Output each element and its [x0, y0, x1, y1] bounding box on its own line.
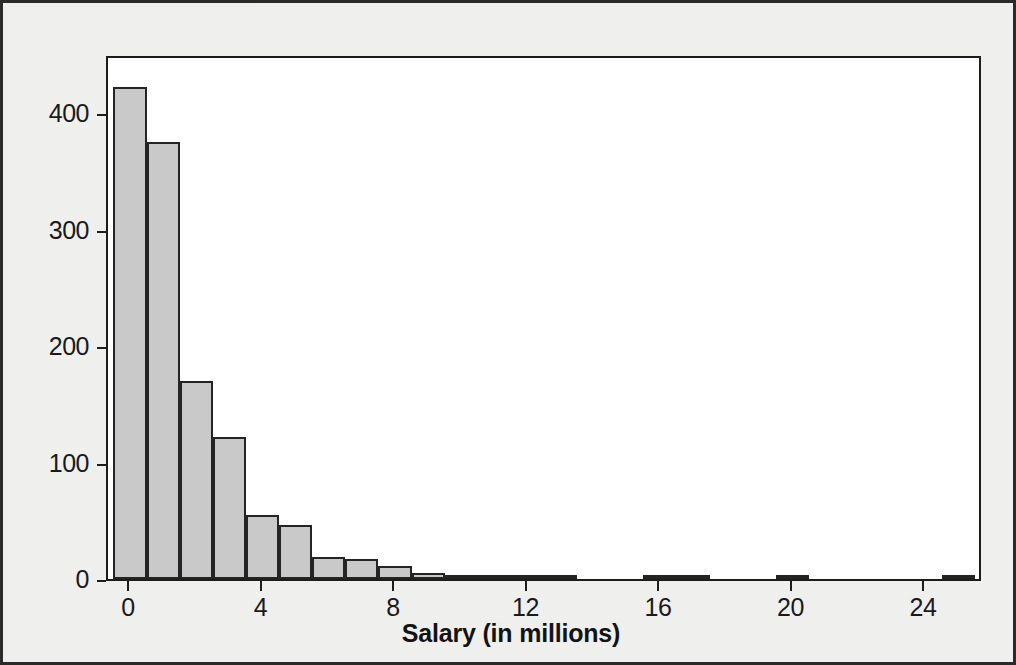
histogram-bar — [246, 515, 279, 579]
x-axis-tick-mark — [657, 581, 659, 591]
x-axis-tick-label: 12 — [486, 593, 566, 622]
x-axis-tick-mark — [127, 581, 129, 591]
plot-area — [106, 56, 981, 581]
x-axis-tick-label: 4 — [221, 593, 301, 622]
y-axis-tick-label: 300 — [3, 216, 89, 245]
histogram-bar — [412, 573, 445, 579]
x-axis-tick-mark — [260, 581, 262, 591]
y-axis-tick-label: 400 — [3, 99, 89, 128]
histogram-bar — [445, 575, 478, 579]
y-axis-tick-label: 0 — [3, 565, 89, 594]
histogram-bar — [942, 575, 975, 579]
y-axis-tick-mark — [97, 347, 106, 349]
histogram-bar — [544, 575, 577, 579]
histogram-bar — [378, 566, 411, 579]
histogram-bar — [478, 575, 511, 579]
bars-layer — [108, 58, 979, 579]
histogram-bar — [213, 437, 246, 579]
y-axis-tick-mark — [97, 114, 106, 116]
y-axis-tick-label: 200 — [3, 332, 89, 361]
histogram-bar — [776, 575, 809, 579]
x-axis-tick-label: 0 — [88, 593, 168, 622]
y-axis-tick-label: 100 — [3, 449, 89, 478]
histogram-bar — [113, 87, 146, 579]
histogram-bar — [677, 575, 710, 579]
histogram-bar — [147, 142, 180, 579]
x-axis-tick-mark — [790, 581, 792, 591]
x-axis-tick-label: 24 — [883, 593, 963, 622]
histogram-bar — [180, 381, 213, 579]
histogram-bar — [643, 575, 676, 579]
histogram-figure: 0100200300400 04812162024 Salary (in mil… — [0, 0, 1016, 665]
x-axis-tick-label: 20 — [751, 593, 831, 622]
x-axis-title: Salary (in millions) — [3, 619, 1016, 648]
y-axis-tick-mark — [97, 464, 106, 466]
x-axis-tick-mark — [922, 581, 924, 591]
histogram-bar — [312, 557, 345, 579]
histogram-bar — [345, 559, 378, 579]
histogram-bar — [511, 575, 544, 579]
y-axis-tick-mark — [97, 231, 106, 233]
x-axis-tick-mark — [525, 581, 527, 591]
histogram-bar — [279, 525, 312, 579]
x-axis-tick-mark — [392, 581, 394, 591]
y-axis-tick-mark — [97, 580, 106, 582]
x-axis-tick-label: 16 — [618, 593, 698, 622]
x-axis-tick-label: 8 — [353, 593, 433, 622]
